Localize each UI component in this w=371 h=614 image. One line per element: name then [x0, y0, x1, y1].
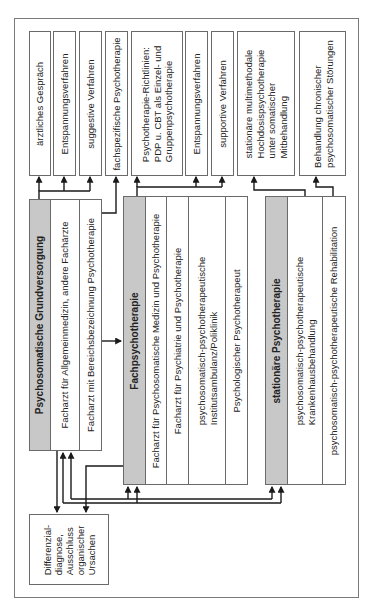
connector-arrows — [0, 0, 371, 614]
